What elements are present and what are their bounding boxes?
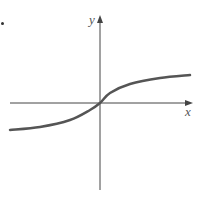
plot-svg — [0, 0, 199, 203]
bullet-marker-icon — [1, 22, 4, 25]
y-axis-label: y — [89, 12, 95, 28]
y-axis-arrow-icon — [97, 15, 103, 23]
x-axis-label: x — [185, 104, 191, 120]
graph-figure: y x — [0, 0, 199, 203]
